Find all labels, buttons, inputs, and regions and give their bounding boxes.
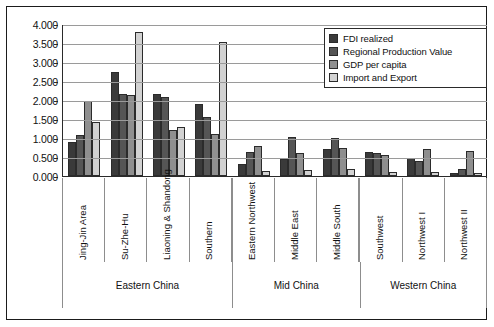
category-cell: Jing-Jin Area	[62, 178, 104, 262]
bar	[458, 169, 466, 176]
bar	[373, 153, 381, 176]
region-cell: Eastern China	[62, 262, 232, 308]
bar	[296, 153, 304, 176]
bar	[177, 127, 185, 176]
bar	[119, 94, 127, 176]
bar	[127, 95, 135, 176]
category-label: Jing-Jin Area	[77, 205, 88, 260]
category-axis: Jing-Jin AreaSu-Zhe-HuLiaoning & Shandon…	[62, 178, 487, 262]
gridline	[63, 25, 487, 26]
bar	[339, 148, 347, 176]
bar	[288, 137, 296, 176]
y-axis-tick-mark	[54, 44, 58, 45]
bar	[423, 149, 431, 176]
legend-swatch-icon	[329, 60, 338, 69]
category-label: Southwest	[374, 216, 385, 260]
bar	[135, 32, 143, 176]
bar	[474, 173, 482, 176]
gridline	[63, 101, 487, 102]
y-axis-tick-mark	[54, 177, 58, 178]
bar	[92, 122, 100, 176]
bar	[389, 172, 397, 176]
legend-item[interactable]: Import and Export	[329, 71, 482, 84]
region-axis: Eastern ChinaMid ChinaWestern China	[62, 262, 487, 308]
category-cell: Su-Zhe-Hu	[104, 178, 146, 262]
chart-root: 0.0000.5001.0001.5002.0002.5003.0003.500…	[0, 0, 494, 327]
category-cell: Northwest II	[444, 178, 487, 262]
bar	[161, 97, 169, 176]
y-axis-tick-mark	[54, 101, 58, 102]
bar	[415, 161, 423, 176]
legend-item[interactable]: GDP per capita	[329, 58, 482, 71]
category-label: Su-Zhe-Hu	[119, 214, 130, 260]
legend-label: FDI realized	[343, 33, 393, 44]
category-cell: Middle East	[274, 178, 316, 262]
bar	[365, 152, 373, 176]
bar	[431, 172, 439, 176]
legend-label: Regional Production Value	[343, 46, 452, 57]
y-axis-tick-mark	[54, 139, 58, 140]
category-cell: Middle South	[316, 178, 359, 262]
bar	[407, 158, 415, 176]
category-label: Northwest I	[416, 212, 427, 260]
bar	[450, 173, 458, 176]
bar	[211, 134, 219, 176]
legend-swatch-icon	[329, 47, 338, 56]
y-axis-tick-mark	[54, 25, 58, 26]
y-axis-tick-mark	[54, 63, 58, 64]
y-axis-labels: 0.0000.5001.0001.5002.0002.5003.0003.500…	[7, 25, 58, 177]
category-cell: Southern	[189, 178, 232, 262]
category-cell: Southwest	[359, 178, 401, 262]
chart-legend: FDI realizedRegional Production ValueGDP…	[324, 28, 487, 88]
y-axis-tick-mark	[54, 158, 58, 159]
bar	[153, 94, 161, 176]
category-cell: Northwest I	[402, 178, 444, 262]
category-label: Eastern Northwest	[246, 182, 257, 260]
legend-swatch-icon	[329, 34, 338, 43]
legend-label: Import and Export	[343, 72, 417, 83]
bar	[254, 146, 262, 176]
category-label: Middle East	[289, 210, 300, 260]
bar	[246, 152, 254, 176]
bar	[262, 171, 270, 176]
region-label: Mid China	[274, 280, 319, 291]
category-cell: Liaoning & Shandong	[146, 178, 188, 262]
y-axis-tick-mark	[54, 82, 58, 83]
legend-label: GDP per capita	[343, 59, 406, 70]
bar	[466, 151, 474, 176]
bar	[111, 72, 119, 177]
bar	[331, 138, 339, 176]
bar	[76, 135, 84, 176]
bar	[280, 159, 288, 176]
region-cell: Mid China	[232, 262, 360, 308]
category-label: Liaoning & Shandong	[161, 169, 172, 260]
bar	[347, 169, 355, 176]
category-label: Southern	[203, 221, 214, 260]
gridline	[63, 158, 487, 159]
gridline	[63, 139, 487, 140]
figure-frame: 0.0000.5001.0001.5002.0002.5003.0003.500…	[6, 6, 487, 320]
gridline	[63, 120, 487, 121]
legend-item[interactable]: Regional Production Value	[329, 45, 482, 58]
bar	[203, 117, 211, 176]
category-cell: Eastern Northwest	[232, 178, 274, 262]
bar	[323, 149, 331, 176]
bar	[304, 170, 312, 176]
y-axis-tick-mark	[54, 120, 58, 121]
category-label: Northwest II	[458, 209, 469, 260]
legend-swatch-icon	[329, 73, 338, 82]
category-label: Middle South	[331, 205, 342, 260]
region-label: Western China	[390, 280, 456, 291]
region-label: Eastern China	[116, 280, 179, 291]
bar	[238, 164, 246, 176]
region-cell: Western China	[360, 262, 488, 308]
legend-item[interactable]: FDI realized	[329, 32, 482, 45]
